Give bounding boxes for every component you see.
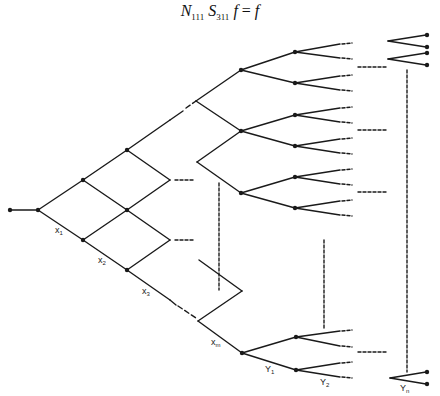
tree-diagram: x1 x2 x3 xm Y1 Y2 Yn (0, 0, 440, 396)
leaf-continuations-upper (342, 43, 386, 216)
label-xm: xm (211, 337, 221, 348)
label-yn: Yn (400, 383, 409, 394)
leaf-fans-upper (295, 44, 340, 215)
label-x2: x2 (98, 255, 107, 266)
label-y2: Y2 (320, 377, 330, 388)
label-y1: Y1 (265, 364, 275, 375)
label-x3: x3 (142, 286, 151, 297)
